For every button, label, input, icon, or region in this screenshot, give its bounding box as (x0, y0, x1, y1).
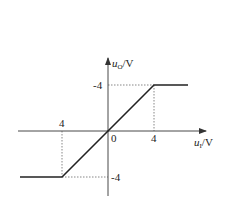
y-tick-pos: -4 (93, 79, 103, 91)
x-axis-label: uI/V (194, 136, 213, 150)
origin-label: 0 (111, 132, 117, 144)
x-tick-neg: 4 (59, 117, 65, 129)
y-axis-label: uO/V (112, 57, 134, 71)
transfer-characteristic-diagram: uO/V uI/V 0 4 4 -4 -4 (0, 0, 228, 209)
y-tick-neg: -4 (111, 171, 121, 183)
x-tick-pos: 4 (151, 132, 157, 144)
